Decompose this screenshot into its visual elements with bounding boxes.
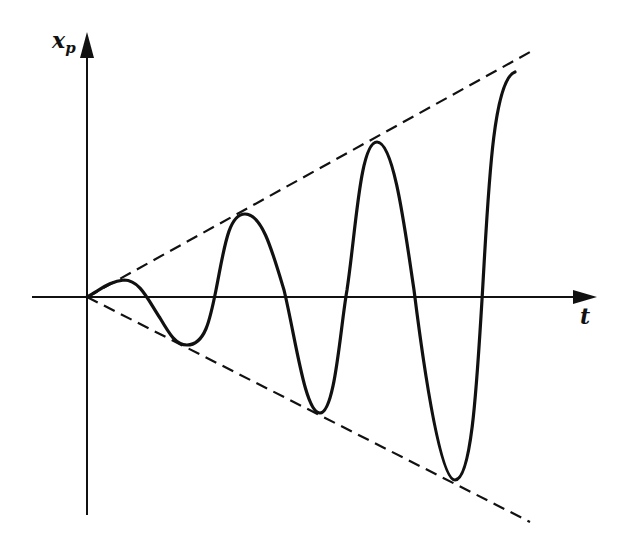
lower-envelope-line: [87, 297, 530, 522]
resonance-diagram: xp t: [0, 0, 622, 544]
x-axis-label: t: [580, 303, 590, 329]
response-curve: [87, 72, 515, 480]
x-axis-arrow-icon: [573, 290, 597, 304]
y-axis-arrow-icon: [80, 32, 94, 58]
upper-envelope-line: [87, 52, 530, 297]
y-axis-label: xp: [51, 27, 76, 57]
